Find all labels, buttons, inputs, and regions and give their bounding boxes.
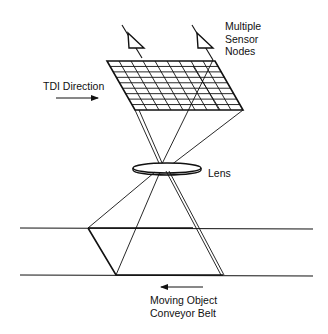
tdi-diagram-canvas bbox=[0, 0, 328, 334]
conveyor-label: Moving Object Conveyor Belt bbox=[150, 294, 216, 319]
sensor-node-1 bbox=[122, 25, 144, 58]
optical-rays-lower bbox=[88, 171, 224, 275]
lens-label: Lens bbox=[208, 167, 231, 180]
conveyor-label-line2: Conveyor Belt bbox=[150, 307, 216, 320]
optical-rays-upper bbox=[135, 60, 243, 172]
tdi-direction-label: TDI Direction bbox=[43, 80, 104, 93]
sensor-nodes-label-line3: Nodes bbox=[225, 45, 261, 58]
sensor-nodes-label: Multiple Sensor Nodes bbox=[225, 20, 261, 58]
sensor-nodes-label-line2: Sensor bbox=[225, 33, 261, 46]
sensor-nodes-label-line1: Multiple bbox=[225, 20, 261, 33]
sensor-grid bbox=[107, 61, 243, 110]
conveyor-belt bbox=[20, 228, 313, 276]
conveyor-label-line1: Moving Object bbox=[150, 294, 216, 307]
sensor-node-2 bbox=[192, 25, 213, 60]
